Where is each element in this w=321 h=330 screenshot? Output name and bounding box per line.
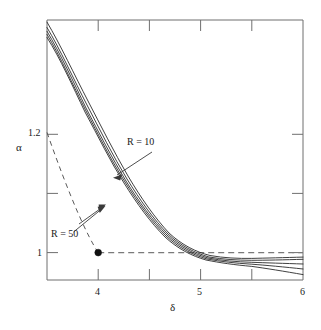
x-tick-label-4: 4 bbox=[95, 287, 100, 297]
plot-canvas bbox=[0, 0, 321, 330]
series-annotation-r10: R = 10 bbox=[127, 137, 154, 147]
curve-r10 bbox=[47, 22, 303, 258]
x-axis-ticks bbox=[98, 20, 252, 280]
y-axis-title: α bbox=[16, 142, 22, 153]
annotation-arrow-r10 bbox=[113, 152, 152, 181]
x-tick-label-6: 6 bbox=[300, 287, 305, 297]
x-axis-title: δ bbox=[170, 302, 175, 313]
marker-point-delta4-alpha1 bbox=[95, 249, 102, 256]
x-tick-label-5: 5 bbox=[197, 287, 202, 297]
curve-r40 bbox=[47, 34, 303, 269]
y-tick-label-1-2: 1.2 bbox=[28, 128, 41, 138]
y-tick-label-1: 1 bbox=[37, 248, 42, 258]
curve-r20 bbox=[47, 28, 303, 261]
chart-figure: α δ 1.2 1 4 5 6 R = 10 R = 50 bbox=[0, 0, 321, 330]
series-annotation-r50: R = 50 bbox=[51, 229, 78, 239]
y-axis-ticks bbox=[47, 134, 303, 252]
curve-family bbox=[47, 22, 303, 275]
curve-r50 bbox=[47, 37, 303, 274]
axis-frame bbox=[47, 20, 303, 280]
